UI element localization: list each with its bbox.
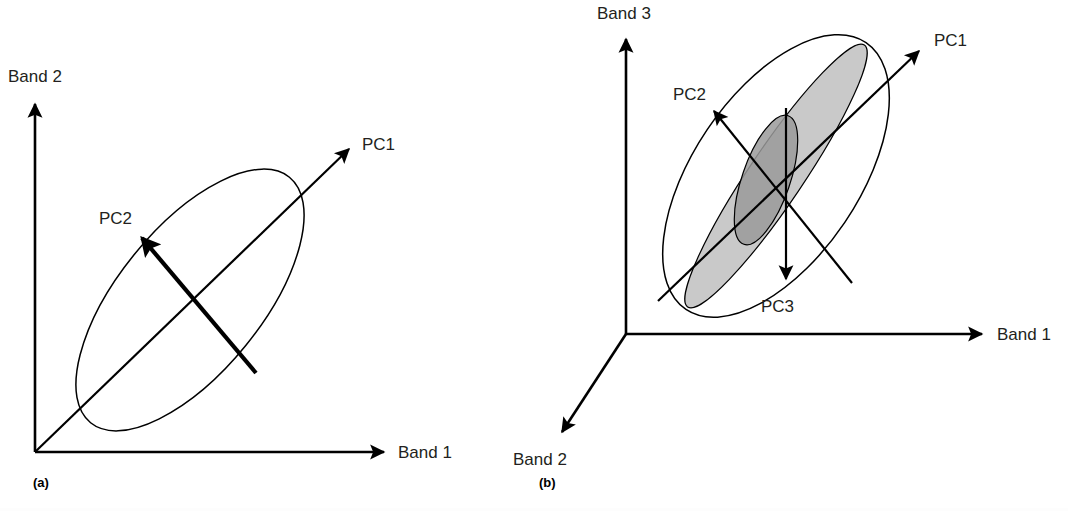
panel-b: Band 3 Band 1 Band 2 PC1 PC2 PC3 (b) [513,0,1051,490]
panel-a-caption: (a) [33,475,49,490]
panel-b-band2-axis-label: Band 2 [513,450,567,469]
panel-a: Band 2 Band 1 PC1 PC2 (a) [8,67,452,490]
pca-figure: Band 2 Band 1 PC1 PC2 (a) Band 3 Band 1 [0,0,1068,511]
panel-a-data-ellipse [35,132,346,468]
panel-a-pc1-label: PC1 [362,135,395,154]
panel-b-caption: (b) [539,475,556,490]
panel-b-pc3-label: PC3 [761,297,794,316]
panel-a-band2-axis-label: Band 2 [8,67,62,86]
panel-a-pc1-axis [35,149,349,452]
panel-b-band2-axis [562,334,626,432]
panel-b-band3-axis-label: Band 3 [597,4,651,23]
pca-diagram-canvas: Band 2 Band 1 PC1 PC2 (a) Band 3 Band 1 [0,0,1068,511]
panel-b-pc1-label: PC1 [934,31,967,50]
panel-b-band1-axis-label: Band 1 [997,325,1051,344]
panel-a-band1-axis-label: Band 1 [398,443,452,462]
panel-b-pc2-label: PC2 [673,85,706,104]
panel-a-pc2-axis [142,238,256,373]
panel-a-pc2-label: PC2 [99,209,132,228]
